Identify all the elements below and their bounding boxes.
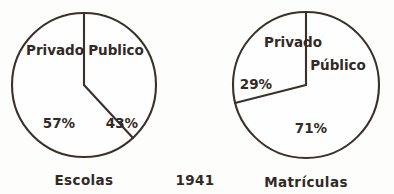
pie-chart-escolas: Privado Publico 57% 43% Escolas — [12, 13, 156, 188]
escolas-chart-title: Escolas — [54, 172, 113, 188]
escolas-slice-label-privado: Privado — [26, 42, 84, 58]
matriculas-slice-value-privado: 29% — [240, 76, 273, 92]
escolas-slice-label-publico: Publico — [88, 42, 144, 58]
escolas-slice-value-privado: 57% — [43, 115, 76, 131]
matriculas-slice-label-privado: Privado — [264, 34, 322, 50]
two-pie-charts-figure: Privado Publico 57% 43% Escolas 1941 Pri… — [0, 0, 394, 194]
year-label: 1941 — [175, 172, 214, 188]
matriculas-slice-value-publico: 71% — [295, 120, 328, 136]
matriculas-slice-label-publico: Público — [310, 57, 366, 73]
pie-chart-matriculas: Privado Público 29% 71% Matrículas — [233, 12, 379, 190]
matriculas-chart-title: Matrículas — [264, 174, 348, 190]
escolas-slice-value-publico: 43% — [106, 115, 139, 131]
